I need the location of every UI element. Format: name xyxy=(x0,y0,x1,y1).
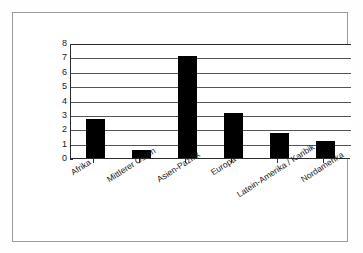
y-tick-label-0: 0 xyxy=(53,154,67,163)
gridline-6 xyxy=(71,73,351,74)
y-tick-mark-0 xyxy=(70,159,73,160)
gridline-8 xyxy=(71,44,351,45)
plot-area xyxy=(70,44,350,159)
y-tick-label-6: 6 xyxy=(53,68,67,77)
bar-asien-pazifik[interactable] xyxy=(178,56,197,158)
gridline-7 xyxy=(71,58,351,59)
y-tick-label-5: 5 xyxy=(53,82,67,91)
y-tick-label-2: 2 xyxy=(53,125,67,134)
gridline-2 xyxy=(71,130,351,131)
gridline-5 xyxy=(71,87,351,88)
y-axis-tick-labels: 8 7 6 5 4 3 2 1 0 xyxy=(52,39,67,164)
figure-frame: Mio. Beschäftigte 8 7 6 5 4 3 2 1 0 xyxy=(12,12,348,242)
chart-figure: Mio. Beschäftigte 8 7 6 5 4 3 2 1 0 xyxy=(0,0,363,253)
y-tick-label-1: 1 xyxy=(53,140,67,149)
bar-europa[interactable] xyxy=(224,113,243,158)
bar-latein-amerika-karibik[interactable] xyxy=(270,133,289,158)
y-tick-label-3: 3 xyxy=(53,111,67,120)
bar-afrika[interactable] xyxy=(86,119,105,158)
gridline-4 xyxy=(71,102,351,103)
gridline-3 xyxy=(71,116,351,117)
y-tick-label-7: 7 xyxy=(53,53,67,62)
y-tick-label-8: 8 xyxy=(53,39,67,48)
x-tick-mark-1 xyxy=(93,159,94,163)
y-tick-label-4: 4 xyxy=(53,97,67,106)
x-axis-label-afrika: Afrika xyxy=(70,158,93,177)
